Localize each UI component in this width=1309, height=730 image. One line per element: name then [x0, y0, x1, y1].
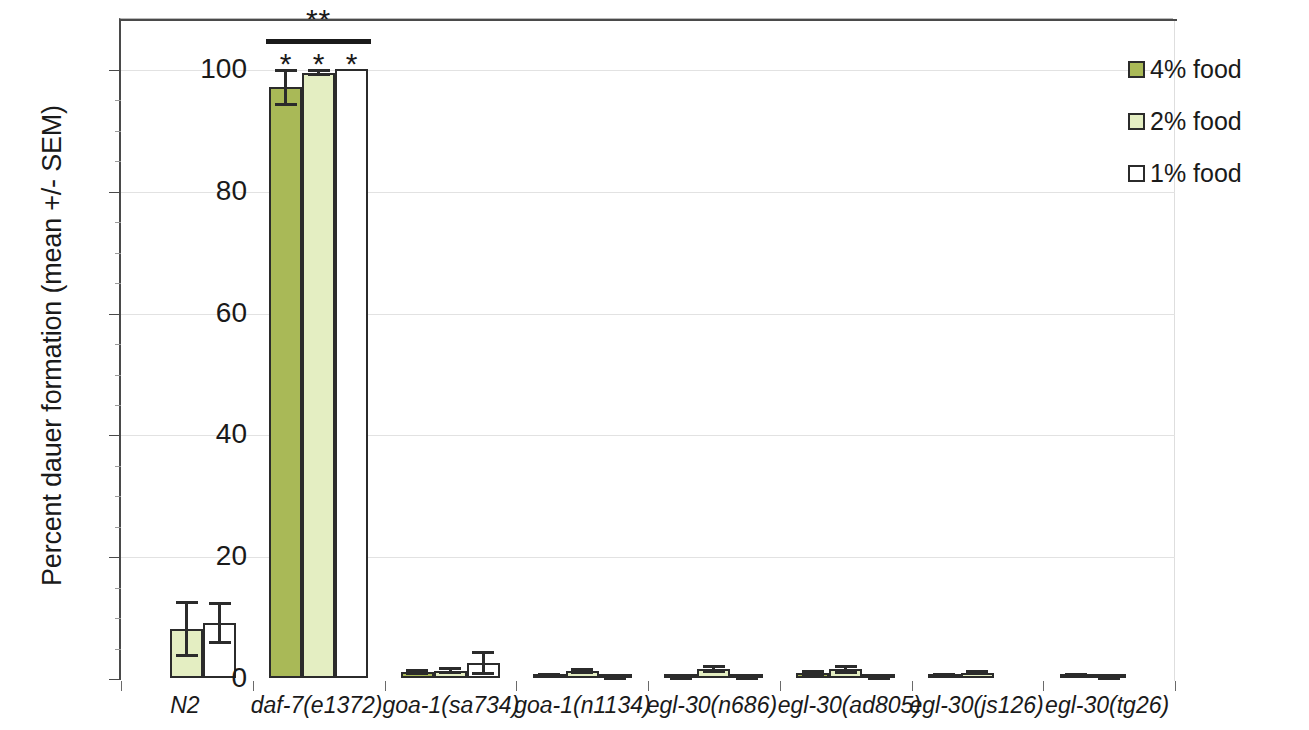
- error-bar: [1098, 676, 1120, 680]
- x-axis-tick: [780, 681, 781, 691]
- y-axis-tick: [109, 192, 121, 193]
- y-axis-minor-tick: [115, 405, 121, 406]
- error-bar: [176, 601, 198, 657]
- error-bar-cap-bottom: [670, 677, 692, 680]
- error-bar-cap-bottom: [868, 677, 890, 680]
- error-bar: [868, 676, 890, 680]
- error-bar-cap-bottom: [571, 671, 593, 674]
- error-bar: [538, 673, 560, 677]
- error-bar-cap-top: [835, 665, 857, 668]
- error-bar-cap-bottom: [933, 674, 955, 677]
- x-axis-tick: [253, 681, 254, 691]
- error-bar-cap-bottom: [439, 671, 461, 674]
- error-bar: [966, 670, 988, 675]
- y-axis-tick: [109, 314, 121, 315]
- bar: [335, 69, 368, 678]
- bar-chart-figure: Percent dauer formation (mean +/- SEM) *…: [0, 0, 1309, 730]
- legend-item: 1% food: [1128, 161, 1242, 186]
- y-axis-tick: [109, 70, 121, 71]
- error-bar-cap-bottom: [275, 103, 297, 106]
- y-axis-minor-tick: [115, 100, 121, 101]
- x-axis-tick: [648, 681, 649, 691]
- error-bar: [604, 676, 626, 680]
- error-bar: [472, 651, 494, 675]
- plot-area: *****: [119, 18, 1173, 680]
- bar: [302, 73, 335, 678]
- y-axis-tick: [109, 435, 121, 436]
- y-axis-minor-tick: [115, 161, 121, 162]
- bar-group: [137, 18, 236, 680]
- y-axis-title: Percent dauer formation (mean +/- SEM): [37, 26, 68, 666]
- error-bar: [1065, 673, 1087, 677]
- y-axis-minor-tick: [115, 588, 121, 589]
- legend-swatch: [1128, 165, 1145, 182]
- error-bar-cap-bottom: [538, 674, 560, 677]
- bar-group: [401, 18, 500, 680]
- legend-item: 2% food: [1128, 109, 1242, 134]
- bar-group: [269, 18, 368, 680]
- y-axis-minor-tick: [115, 375, 121, 376]
- x-axis-tick: [121, 681, 122, 691]
- error-bar-cap-top: [703, 665, 725, 668]
- y-axis-minor-tick: [115, 222, 121, 223]
- legend-label: 4% food: [1150, 57, 1242, 82]
- y-axis-minor-tick: [115, 649, 121, 650]
- y-axis-tick-label: 0: [231, 664, 247, 692]
- x-axis-tick-label: N2: [119, 694, 251, 717]
- error-bar-cap-bottom: [703, 670, 725, 673]
- x-axis-tick: [1043, 681, 1044, 691]
- y-axis-minor-tick: [115, 527, 121, 528]
- bar-group: [533, 18, 632, 680]
- legend: 4% food2% food1% food: [1128, 57, 1242, 213]
- y-axis-tick-label: 100: [200, 55, 247, 83]
- error-bar-cap-bottom: [835, 671, 857, 674]
- x-axis-tick-label: goa-1(n1134): [514, 694, 646, 717]
- error-bar: [439, 667, 461, 674]
- y-axis-minor-tick: [115, 283, 121, 284]
- y-axis-minor-tick: [115, 131, 121, 132]
- x-axis-tick-label: egl-30(tg26): [1041, 694, 1173, 717]
- error-bar-cap-bottom: [802, 673, 824, 676]
- y-axis-tick-label: 60: [216, 299, 247, 327]
- x-axis-tick: [385, 681, 386, 691]
- error-bar: [933, 673, 955, 677]
- error-bar-cap-top: [209, 602, 231, 605]
- error-bar-cap-bottom: [406, 672, 428, 675]
- legend-label: 2% food: [1150, 109, 1242, 134]
- error-bar: [670, 676, 692, 680]
- error-bar-cap-bottom: [736, 677, 758, 680]
- bar-group: [664, 18, 763, 680]
- error-bar: [703, 665, 725, 674]
- error-bar-cap-bottom: [604, 677, 626, 680]
- legend-swatch: [1128, 113, 1145, 130]
- error-bar-cap-top: [439, 667, 461, 670]
- error-bar-stem: [185, 601, 188, 657]
- y-axis-tick-label: 80: [216, 177, 247, 205]
- x-axis-tick: [1175, 681, 1176, 691]
- error-bar-cap-top: [472, 651, 494, 654]
- significance-bracket: [266, 39, 371, 44]
- x-axis-tick-label: egl-30(js126): [910, 694, 1042, 717]
- x-axis-tick-label: daf-7(e1372): [251, 694, 383, 717]
- legend-item: 4% food: [1128, 57, 1242, 82]
- bar-group: [796, 18, 895, 680]
- y-axis-minor-tick: [115, 344, 121, 345]
- y-axis-minor-tick: [115, 253, 121, 254]
- y-axis-minor-tick: [115, 496, 121, 497]
- x-axis-tick-label: egl-30(ad805): [778, 694, 910, 717]
- x-axis-tick: [516, 681, 517, 691]
- y-axis-minor-tick: [115, 618, 121, 619]
- legend-label: 1% food: [1150, 161, 1242, 186]
- bar-group: [928, 18, 1027, 680]
- x-axis-line: [121, 19, 1177, 21]
- significance-label-star: *: [332, 49, 372, 79]
- error-bar: [209, 602, 231, 643]
- error-bar-cap-bottom: [1098, 677, 1120, 680]
- x-axis-tick: [912, 681, 913, 691]
- error-bar-cap-bottom: [472, 672, 494, 675]
- error-bar-cap-bottom: [966, 672, 988, 675]
- error-bar: [802, 670, 824, 676]
- error-bar-cap-top: [176, 601, 198, 604]
- y-axis-tick-label: 40: [216, 420, 247, 448]
- y-axis-minor-tick: [115, 466, 121, 467]
